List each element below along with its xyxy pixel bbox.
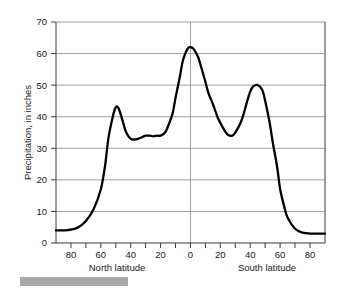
- x-tick-label: 0: [188, 249, 193, 260]
- y-tick-label: 0: [42, 237, 47, 248]
- x-axis-tick-marks: [71, 243, 310, 248]
- redacted-caption-bar: [20, 277, 128, 286]
- y-axis-tick-labels: 70 60 50 40 30 20 10 0: [36, 16, 47, 248]
- y-tick-label: 40: [36, 111, 47, 122]
- south-latitude-axis-label: South latitude: [238, 262, 296, 273]
- y-tick-label: 20: [36, 174, 47, 185]
- y-axis-title: Precipitation, in inches: [22, 85, 33, 180]
- y-tick-label: 10: [36, 206, 47, 217]
- x-tick-label: 20: [215, 249, 226, 260]
- x-tick-label: 20: [155, 249, 166, 260]
- y-tick-label: 50: [36, 80, 47, 91]
- north-latitude-axis-label: North latitude: [89, 262, 146, 273]
- x-axis-tick-labels: 80 60 40 20 0 20 40 60 80: [66, 249, 316, 260]
- y-tick-label: 30: [36, 143, 47, 154]
- x-tick-label: 60: [96, 249, 107, 260]
- x-tick-label: 80: [66, 249, 77, 260]
- x-tick-label: 80: [305, 249, 316, 260]
- precipitation-latitude-line-chart: 70 60 50 40 30 20 10 0 80 60 40 20 0 20 …: [0, 0, 342, 293]
- x-tick-label: 40: [125, 249, 136, 260]
- y-tick-label: 70: [36, 16, 47, 27]
- precipitation-by-latitude-figure: 70 60 50 40 30 20 10 0 80 60 40 20 0 20 …: [0, 0, 342, 293]
- x-tick-label: 40: [245, 249, 256, 260]
- y-axis-tick-marks: [51, 22, 56, 243]
- x-tick-label: 60: [275, 249, 286, 260]
- y-tick-label: 60: [36, 48, 47, 59]
